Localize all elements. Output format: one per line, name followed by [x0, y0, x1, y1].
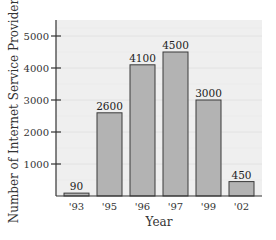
x-tick-label: '96	[135, 201, 150, 212]
x-tick-label: '99	[201, 201, 216, 212]
bar-chart: 902600410045003000450 100020003000400050…	[0, 0, 276, 240]
bar	[229, 182, 254, 196]
y-tick-label: 4000	[24, 63, 49, 74]
y-tick-label: 5000	[24, 31, 49, 42]
bar-value-label: 4100	[129, 52, 156, 64]
bar	[163, 52, 188, 196]
y-tick-label: 3000	[24, 95, 49, 106]
bar-value-label: 450	[231, 169, 251, 181]
bar-value-label: 90	[70, 180, 83, 192]
x-axis-title: Year	[145, 215, 173, 229]
x-tick-label: '02	[234, 201, 249, 212]
bar-value-label: 2600	[96, 100, 123, 112]
x-tick-label: '95	[102, 201, 117, 212]
bar-value-label: 3000	[195, 87, 222, 99]
y-axis-title: Number of Internet Service Providers	[7, 0, 21, 223]
y-tick-label: 2000	[24, 127, 49, 138]
x-axis: '93'95'96'97'99'02	[56, 196, 262, 212]
x-tick-label: '97	[168, 201, 183, 212]
y-axis: 10002000300040005000	[24, 20, 61, 196]
bar-value-label: 4500	[162, 39, 189, 51]
y-tick-label: 1000	[24, 159, 49, 170]
bar	[196, 100, 221, 196]
x-tick-label: '93	[69, 201, 84, 212]
bar	[130, 65, 155, 196]
bar	[97, 113, 122, 196]
